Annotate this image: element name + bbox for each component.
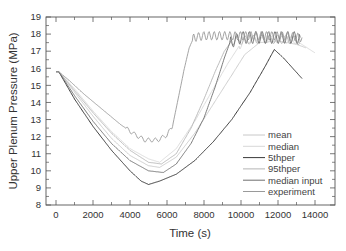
- x-tick-label: 8000: [193, 209, 214, 220]
- y-tick-label: 19: [30, 11, 41, 22]
- legend-label: median: [268, 141, 299, 152]
- y-tick-label: 10: [30, 165, 41, 176]
- y-tick-label: 18: [30, 28, 41, 39]
- x-tick-label: 6000: [156, 209, 177, 220]
- x-tick-label: 14000: [302, 209, 328, 220]
- y-tick-label: 12: [30, 131, 41, 142]
- x-tick-label: 12000: [265, 209, 291, 220]
- y-tick-label: 17: [30, 45, 41, 56]
- x-tick-label: 10000: [228, 209, 254, 220]
- y-tick-label: 8: [36, 199, 41, 210]
- legend-label: mean: [268, 129, 292, 140]
- y-tick-label: 15: [30, 80, 41, 91]
- legend: meanmedian5thper95thpermedian inputexper…: [243, 129, 323, 197]
- y-axis-label: Upper Plenum Pressure (MPa): [7, 32, 19, 189]
- legend-label: median input: [268, 175, 323, 186]
- legend-label: experiment: [268, 186, 315, 197]
- x-tick-label: 0: [53, 209, 58, 220]
- series-line-5thper: [56, 50, 302, 185]
- y-tick-label: 9: [36, 182, 41, 193]
- y-tick-label: 16: [30, 63, 41, 74]
- y-tick-label: 13: [30, 114, 41, 125]
- y-tick-label: 14: [30, 97, 41, 108]
- pressure-chart: 0200040006000800010000120001400089101112…: [0, 0, 346, 251]
- y-tick-label: 11: [31, 148, 41, 159]
- legend-label: 5thper: [268, 152, 295, 163]
- x-axis-label: Time (s): [169, 227, 211, 239]
- x-tick-label: 2000: [82, 209, 103, 220]
- x-tick-label: 4000: [119, 209, 140, 220]
- legend-label: 95thper: [268, 163, 300, 174]
